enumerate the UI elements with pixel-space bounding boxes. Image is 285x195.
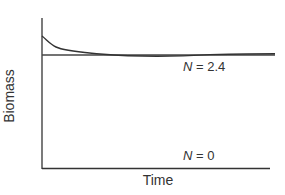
annotation-variable: N — [183, 59, 192, 74]
chart-plot-area — [0, 0, 285, 195]
biomass-decay-curve — [42, 36, 275, 56]
annotation-n-0: N = 0 — [183, 148, 214, 163]
y-axis-label: Biomass — [1, 69, 17, 123]
annotation-value: = 0 — [192, 148, 214, 163]
annotation-n-2-4: N = 2.4 — [183, 59, 225, 74]
annotation-variable: N — [183, 148, 192, 163]
x-axis-label: Time — [143, 172, 174, 188]
annotation-value: = 2.4 — [192, 59, 225, 74]
